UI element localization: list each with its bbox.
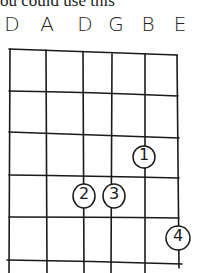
frets (7, 49, 182, 264)
finger-2-label: 2 (77, 184, 91, 203)
finger-3-label: 3 (107, 184, 121, 203)
finger-4-label: 4 (171, 226, 185, 245)
finger-1-label: 1 (137, 145, 151, 164)
chord-grid (0, 0, 200, 273)
